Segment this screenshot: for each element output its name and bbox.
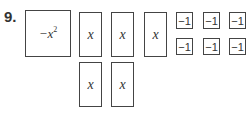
tile-label: x <box>119 77 125 93</box>
tile-label: x <box>87 77 93 93</box>
x-tile: x <box>111 12 134 57</box>
unit-tile: −1 <box>229 38 246 55</box>
x-tile: x <box>144 12 167 57</box>
tile-label: −1 <box>178 41 191 53</box>
tile-label: −1 <box>178 15 191 27</box>
tile-label: −1 <box>205 41 218 53</box>
problem-number: 9. <box>4 8 17 25</box>
unit-tile: −1 <box>203 12 220 29</box>
x-tile: x <box>79 62 102 107</box>
x-tile: x <box>111 62 134 107</box>
tile-label: −1 <box>231 15 244 27</box>
unit-tile: −1 <box>176 38 193 55</box>
x-tile: x <box>79 12 102 57</box>
negative-x-squared-tile: −x2 <box>25 10 71 57</box>
tile-label: −x2 <box>39 25 58 42</box>
tile-label: x <box>87 27 93 43</box>
tile-label: x <box>119 27 125 43</box>
tile-label: −1 <box>205 15 218 27</box>
unit-tile: −1 <box>203 38 220 55</box>
tile-label: −1 <box>231 41 244 53</box>
unit-tile: −1 <box>176 12 193 29</box>
unit-tile: −1 <box>229 12 246 29</box>
tile-label: x <box>152 27 158 43</box>
